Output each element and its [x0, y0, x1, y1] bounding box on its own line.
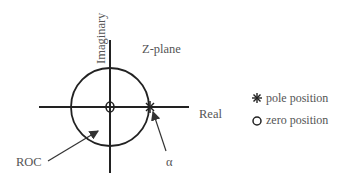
- alpha-arrow: [153, 112, 166, 151]
- pole-marker-icon: [144, 101, 156, 113]
- roc-label: ROC: [16, 155, 42, 169]
- legend-zero-label: zero position: [266, 113, 328, 127]
- z-plane-diagram: Imaginary Z-plane Real ROC α pole positi…: [0, 0, 363, 180]
- legend-pole-icon: [252, 93, 262, 103]
- legend-zero-icon: [253, 117, 261, 125]
- axis-label-imaginary: Imaginary: [94, 12, 108, 64]
- legend: pole position zero position: [252, 91, 328, 127]
- legend-pole-label: pole position: [266, 91, 328, 105]
- title-z-plane: Z-plane: [142, 42, 181, 56]
- roc-arrow: [48, 131, 98, 161]
- axis-label-real: Real: [199, 107, 222, 121]
- alpha-label: α: [166, 155, 173, 169]
